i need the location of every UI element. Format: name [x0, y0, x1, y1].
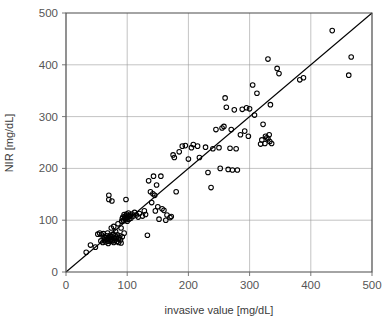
x-tick-label: 100: [118, 279, 137, 291]
y-tick-label: 300: [39, 111, 58, 123]
y-tick-label: 200: [39, 162, 58, 174]
y-tick-label: 500: [39, 7, 58, 19]
x-tick-label: 200: [179, 279, 198, 291]
x-tick-label: 400: [301, 279, 320, 291]
y-tick-label: 100: [39, 214, 58, 226]
scatter-plot-figure: 01002003004005000100200300400500 invasiv…: [0, 0, 388, 321]
x-axis-label: invasive value [mg/dL]: [165, 304, 274, 316]
x-tick-label: 300: [240, 279, 259, 291]
y-tick-label: 0: [52, 266, 58, 278]
x-tick-label: 500: [362, 279, 381, 291]
y-tick-label: 400: [39, 59, 58, 71]
y-axis-label: NIR [mg/dL]: [3, 114, 15, 173]
x-tick-label: 0: [63, 279, 69, 291]
